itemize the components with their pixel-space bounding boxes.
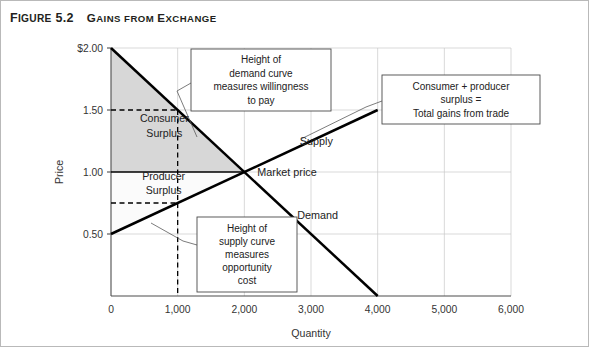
supply-height-callout-line: opportunity (222, 262, 271, 273)
supply-height-callout-line: cost (238, 275, 257, 286)
total-gains-callout: Consumer + producersurplus =Total gains … (382, 75, 540, 124)
total-gains-callout-line: surplus = (441, 94, 482, 105)
demand-height-callout-line: demand curve (229, 68, 293, 79)
producer-surplus-label: Producer (142, 170, 185, 182)
figure-title: GAINS FROM EXCHANGE (87, 11, 217, 24)
y-axis-label: Price (53, 160, 65, 184)
figure-container: FIGURE 5.2GAINS FROM EXCHANGE $2.001.501… (0, 0, 589, 347)
chart-area: $2.001.501.000.5001,0002,0003,0004,0005,… (1, 27, 589, 347)
x-axis-label: Quantity (291, 327, 331, 339)
x-tick-label: 6,000 (498, 304, 524, 315)
y-tick-label: 0.50 (83, 229, 103, 240)
x-tick-label: 0 (108, 304, 114, 315)
supply-height-callout-line: measures (225, 249, 269, 260)
figure-header: FIGURE 5.2GAINS FROM EXCHANGE (10, 8, 580, 28)
demand-height-callout: Height ofdemand curvemeasures willingnes… (191, 49, 331, 111)
x-tick-label: 4,000 (365, 304, 391, 315)
x-tick-label: 5,000 (431, 304, 457, 315)
demand-curve-label: Demand (297, 209, 338, 221)
x-tick-label: 1,000 (165, 304, 191, 315)
demand-height-callout-line: Height of (241, 54, 281, 65)
y-tick-label: 1.50 (83, 105, 103, 116)
supply-height-callout-line: supply curve (219, 236, 276, 247)
supply-curve-label: Supply (300, 135, 334, 147)
consumer-surplus-label: Consumer (140, 112, 189, 124)
producer-surplus-label: Surplus (146, 184, 182, 196)
y-tick-label: 1.00 (83, 167, 103, 178)
total-gains-callout-line: Total gains from trade (413, 108, 510, 119)
y-tick-label: $2.00 (77, 43, 103, 54)
figure-number: FIGURE 5.2 (10, 11, 74, 25)
demand-height-callout-line: measures willingness (213, 81, 308, 92)
consumer-surplus-label: Surplus (146, 127, 182, 139)
x-tick-label: 2,000 (231, 304, 257, 315)
total-gains-callout-line: Consumer + producer (413, 81, 511, 92)
supply-demand-chart: $2.001.501.000.5001,0002,0003,0004,0005,… (1, 27, 589, 347)
supply-height-callout: Height ofsupply curvemeasuresopportunity… (197, 217, 297, 292)
x-tick-label: 3,000 (298, 304, 324, 315)
supply-height-callout-line: Height of (227, 223, 267, 234)
demand-height-callout-line: to pay (247, 95, 274, 106)
market-price-label: Market price (257, 166, 316, 178)
